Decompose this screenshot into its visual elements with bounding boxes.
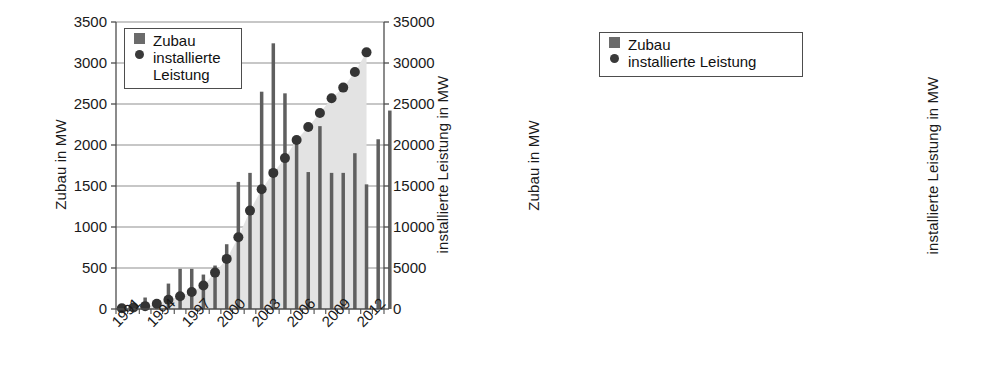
y2-axis-tick-label: 0 [393,300,401,317]
dot-installierte-leistung [245,206,255,216]
bar-zubau [178,269,182,309]
bar-zubau [295,143,299,309]
bar-zubau [283,93,287,309]
bar-swatch-icon [608,37,621,48]
y-axis-tick-label: 0 [99,300,107,317]
legend-label-zubau: Zubau [628,37,671,54]
legend-row-zubau: Zubau [600,37,802,54]
dot-installierte-leistung [222,254,232,264]
dot-installierte-leistung [303,122,313,132]
right-chart-y2-axis-title: installierte Leistung in MW [924,56,941,276]
dot-installierte-leistung [292,135,302,145]
y2-axis-tick-label: 10000 [393,218,435,235]
dot-installierte-leistung [187,287,197,297]
left-chart-y-axis-title: Zubau in MW [52,104,69,224]
bar-zubau [341,173,345,309]
dot-installierte-leistung [233,232,243,242]
dot-swatch-icon [608,54,621,63]
dot-installierte-leistung [210,268,220,278]
bar-zubau [260,92,264,309]
bar-zubau [248,173,252,309]
bar-zubau [330,173,334,309]
y2-axis-tick-label: 35000 [393,13,435,30]
y-axis-tick-label: 500 [82,259,107,276]
y2-axis-tick-label: 25000 [393,95,435,112]
y-axis-tick-label: 1500 [74,177,107,194]
y2-axis-tick-label: 20000 [393,136,435,153]
bar-zubau [307,172,311,309]
y2-axis-tick-label: 30000 [393,54,435,71]
chart-left: Zubau in MW installierte Leistung in MW … [0,0,490,379]
left-chart-legend: Zubau installierte Leistung [124,28,242,89]
y-axis-tick-label: 3000 [74,54,107,71]
right-chart-legend: Zubau installierte Leistung [599,32,803,77]
legend-row-installierte-leistung: installierte Leistung [125,50,241,84]
bar-swatch-icon [133,33,146,44]
y-axis-tick-label: 3500 [74,13,107,30]
dot-installierte-leistung [338,83,348,93]
y-axis-tick-label: 2500 [74,95,107,112]
dot-installierte-leistung [198,280,208,290]
right-chart-y-axis-title: Zubau in MW [525,106,542,226]
bar-zubau [365,184,369,309]
dot-installierte-leistung [327,93,337,103]
bar-zubau [318,126,322,309]
dot-installierte-leistung [257,184,267,194]
legend-label-installierte-leistung: installierte Leistung [628,54,756,71]
y2-axis-tick-label: 5000 [393,259,426,276]
y-axis-tick-label: 1000 [74,218,107,235]
dot-installierte-leistung [350,67,360,77]
y2-axis-tick-label: 15000 [393,177,435,194]
legend-label-zubau: Zubau [153,33,196,50]
dot-swatch-icon [133,50,146,59]
bar-zubau [237,182,241,309]
installed-capacity-area [116,52,367,309]
bar-zubau [353,153,357,309]
dot-installierte-leistung [315,108,325,118]
legend-row-zubau: Zubau [125,33,241,50]
y-axis-tick-label: 2000 [74,136,107,153]
dot-installierte-leistung [362,47,372,57]
legend-label-installierte-leistung: installierte Leistung [153,50,221,84]
dot-installierte-leistung [280,153,290,163]
bar-zubau [376,139,380,309]
left-chart-y2-axis-title: installierte Leistung in MW [434,54,451,274]
legend-row-installierte-leistung: installierte Leistung [600,54,802,71]
dot-installierte-leistung [268,168,278,178]
figure-two-charts: Zubau in MW installierte Leistung in MW … [0,0,981,379]
bar-zubau [388,111,392,309]
dot-installierte-leistung [175,291,185,301]
chart-right: Zubau in MW installierte Leistung in MW … [490,0,981,379]
